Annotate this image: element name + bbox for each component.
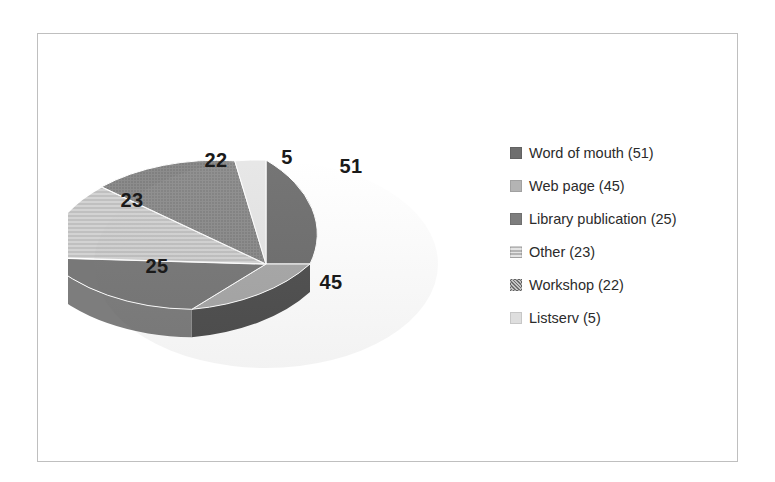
legend-swatch-workshop xyxy=(510,279,522,291)
pie-chart-plot-area: 51 45 25 23 22 5 xyxy=(38,34,508,463)
legend-label-web-page: Web page (45) xyxy=(529,178,625,194)
legend-item-library-publication[interactable]: Library publication (25) xyxy=(510,202,735,235)
legend-label-other: Other (23) xyxy=(529,244,595,260)
legend-label-word-of-mouth: Word of mouth (51) xyxy=(529,145,654,161)
pie-data-label-other: 23 xyxy=(120,189,143,212)
pie-data-label-word-of-mouth: 51 xyxy=(339,155,362,178)
pie-data-label-listserv: 5 xyxy=(281,146,293,169)
pie-chart-3d xyxy=(68,94,468,374)
pie-data-label-library-publication: 25 xyxy=(145,255,168,278)
pie-data-label-workshop: 22 xyxy=(204,149,227,172)
legend-swatch-web-page xyxy=(510,180,522,192)
legend-item-web-page[interactable]: Web page (45) xyxy=(510,169,735,202)
legend-item-workshop[interactable]: Workshop (22) xyxy=(510,268,735,301)
legend-item-other[interactable]: Other (23) xyxy=(510,235,735,268)
pie-data-label-web-page: 45 xyxy=(319,271,342,294)
chart-frame: 51 45 25 23 22 5 Word of mouth (51) Web … xyxy=(37,33,738,462)
chart-legend: Word of mouth (51) Web page (45) Library… xyxy=(510,136,735,334)
legend-swatch-word-of-mouth xyxy=(510,147,522,159)
legend-item-word-of-mouth[interactable]: Word of mouth (51) xyxy=(510,136,735,169)
legend-label-listserv: Listserv (5) xyxy=(529,310,601,326)
legend-label-workshop: Workshop (22) xyxy=(529,277,624,293)
legend-swatch-library-publication xyxy=(510,213,522,225)
legend-swatch-other xyxy=(510,246,522,258)
legend-item-listserv[interactable]: Listserv (5) xyxy=(510,301,735,334)
legend-swatch-listserv xyxy=(510,312,522,324)
legend-label-library-publication: Library publication (25) xyxy=(529,211,677,227)
